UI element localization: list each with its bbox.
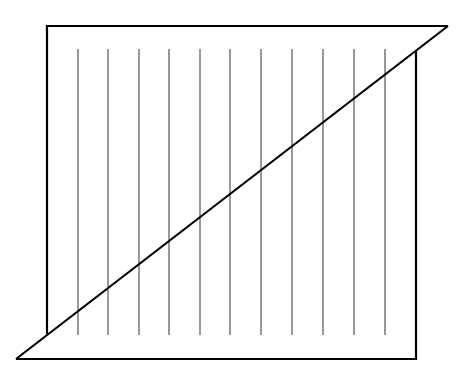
diagonal-line [16,26,448,359]
diagram-canvas [0,0,465,381]
